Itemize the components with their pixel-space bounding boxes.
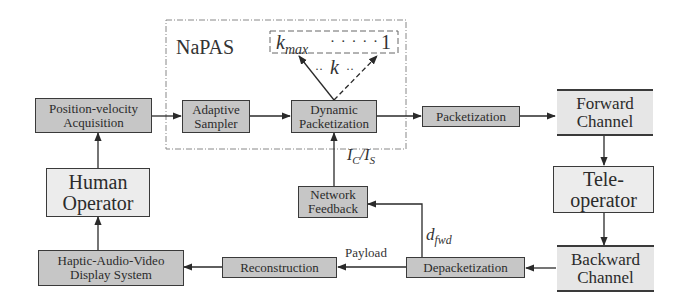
block-line: Display System [70, 267, 152, 282]
kmax-label: kmax [276, 31, 308, 58]
block-line: Feedback [308, 201, 358, 216]
block-line: operator [570, 189, 637, 211]
dfwd-part: d [426, 225, 435, 244]
block-line: Acquisition [63, 115, 124, 130]
payload-label: Payload [345, 245, 387, 261]
block-line: Tele- [583, 168, 624, 190]
teleoperator-block: Tele-operator [553, 166, 654, 213]
dfwd-part: fwd [435, 233, 452, 247]
k-dots-right: ·· [346, 62, 354, 77]
block-line: Sampler [194, 116, 237, 131]
packetization-block: Packetization [422, 106, 520, 127]
haptic-audio-video-display-block: Haptic-Audio-VideoDisplay System [38, 250, 184, 286]
block-line: Backward [571, 250, 640, 269]
backward-channel-block: BackwardChannel [557, 245, 654, 292]
block-line: Packetization [299, 116, 369, 131]
reconstruction-block: Reconstruction [222, 257, 337, 278]
human-operator-block: HumanOperator [46, 168, 150, 217]
ic-is-label: IC/IS [347, 146, 375, 166]
k-range-dots: · · · · · [330, 33, 379, 50]
block-line: Channel [577, 112, 634, 131]
block-line: Depacketization [423, 261, 507, 275]
forward-channel-block: ForwardChannel [557, 89, 653, 136]
napas-title: NaPAS [176, 36, 234, 59]
arrow-to-one [334, 56, 377, 100]
ic-is-part: C [352, 154, 359, 166]
k-label: k [330, 56, 339, 79]
depacketization-block: Depacketization [406, 257, 525, 278]
ic-is-part: S [370, 154, 376, 166]
kmax-sub: max [285, 42, 308, 57]
k-min-label: 1 [381, 31, 391, 54]
adaptive-sampler-block: AdaptiveSampler [182, 100, 250, 133]
block-line: Operator [62, 192, 133, 214]
k-dots-left: ·· [315, 62, 323, 77]
block-line: Human [69, 171, 128, 193]
kmax-k: k [276, 31, 285, 53]
block-line: Packetization [436, 110, 506, 124]
position-velocity-acquisition-block: Position-velocityAcquisition [35, 98, 152, 133]
block-line: Reconstruction [240, 261, 319, 275]
block-line: Channel [577, 268, 634, 287]
block-line: Forward [576, 94, 634, 113]
dynamic-packetization-block: DynamicPacketization [291, 100, 377, 133]
network-feedback-block: NetworkFeedback [298, 186, 368, 218]
dfwd-label: dfwd [426, 225, 452, 248]
